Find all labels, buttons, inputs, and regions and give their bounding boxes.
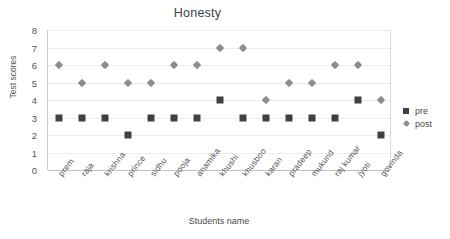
- data-point-post: [170, 61, 178, 69]
- data-point-post: [262, 96, 270, 104]
- data-point-pre: [331, 114, 338, 121]
- gridline-5: [48, 83, 390, 84]
- data-point-pre: [354, 97, 361, 104]
- y-axis-ticks: 012345678: [0, 30, 43, 170]
- y-tick-label: 0: [32, 165, 37, 176]
- chart-title: Honesty: [0, 6, 395, 20]
- data-point-post: [55, 61, 63, 69]
- legend-label: pre: [415, 106, 428, 116]
- y-tick-label: 8: [32, 25, 37, 36]
- legend-item-post[interactable]: post: [401, 117, 449, 130]
- y-tick-label: 1: [32, 147, 37, 158]
- data-point-pre: [125, 132, 132, 139]
- gridline-3: [48, 118, 390, 119]
- data-point-post: [376, 96, 384, 104]
- data-point-post: [307, 78, 315, 86]
- chart-container: Honesty Test scores 012345678 premrajakr…: [0, 0, 450, 239]
- data-point-pre: [285, 114, 292, 121]
- legend-label: post: [415, 119, 432, 129]
- data-point-post: [239, 43, 247, 51]
- data-point-post: [78, 78, 86, 86]
- data-point-pre: [377, 132, 384, 139]
- data-point-pre: [217, 97, 224, 104]
- data-point-pre: [79, 114, 86, 121]
- data-point-pre: [56, 114, 63, 121]
- y-tick-label: 7: [32, 42, 37, 53]
- data-point-post: [353, 61, 361, 69]
- legend-swatch-pre-icon: [401, 108, 411, 114]
- gridline-2: [48, 135, 390, 136]
- chart-legend: prepost: [401, 104, 449, 130]
- data-point-pre: [148, 114, 155, 121]
- data-point-pre: [194, 114, 201, 121]
- y-tick-label: 3: [32, 112, 37, 123]
- y-tick-label: 2: [32, 130, 37, 141]
- data-point-post: [330, 61, 338, 69]
- x-axis-title: Students name: [47, 216, 391, 226]
- data-point-post: [216, 43, 224, 51]
- data-point-post: [124, 78, 132, 86]
- data-point-pre: [171, 114, 178, 121]
- data-point-pre: [102, 114, 109, 121]
- data-point-post: [285, 78, 293, 86]
- y-tick-label: 6: [32, 60, 37, 71]
- data-point-pre: [308, 114, 315, 121]
- gridline-8: [48, 30, 390, 31]
- data-point-post: [101, 61, 109, 69]
- legend-swatch-post-icon: [401, 121, 411, 126]
- data-point-pre: [239, 114, 246, 121]
- data-point-post: [193, 61, 201, 69]
- y-tick-label: 5: [32, 77, 37, 88]
- x-axis-ticks: premrajakrishnaprincesidhupoojaanamikakh…: [47, 172, 391, 214]
- data-point-post: [147, 78, 155, 86]
- data-point-pre: [262, 114, 269, 121]
- legend-item-pre[interactable]: pre: [401, 104, 449, 117]
- y-tick-label: 4: [32, 95, 37, 106]
